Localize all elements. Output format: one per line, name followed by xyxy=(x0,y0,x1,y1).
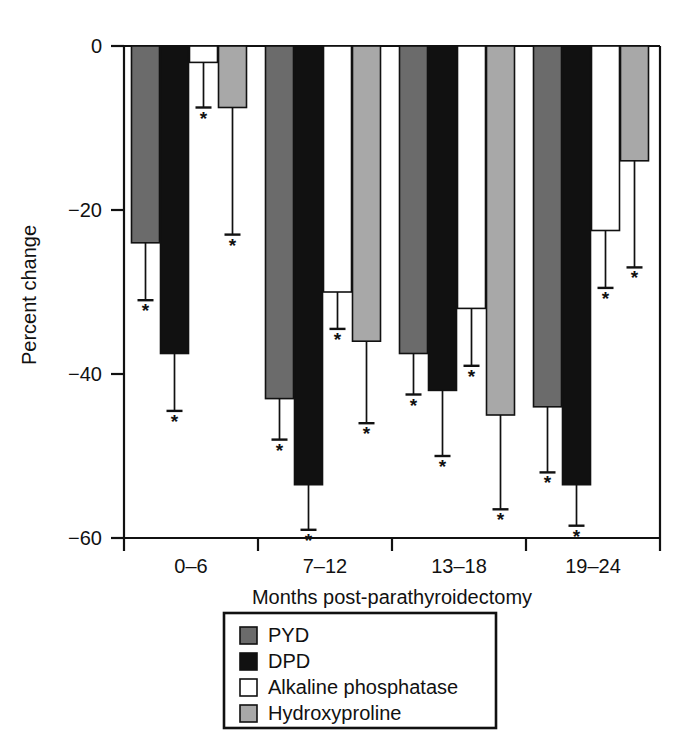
y-tick-label: −40 xyxy=(68,363,102,385)
y-axis-title: Percent change xyxy=(18,225,40,365)
significance-asterisk: * xyxy=(573,526,581,547)
category-label: 19–24 xyxy=(565,555,621,577)
significance-asterisk: * xyxy=(468,366,476,387)
legend-label: Alkaline phosphatase xyxy=(268,676,458,698)
significance-asterisk: * xyxy=(305,530,313,551)
significance-asterisk: * xyxy=(363,423,371,444)
significance-asterisk: * xyxy=(410,395,418,416)
y-tick-label: 0 xyxy=(91,35,102,57)
legend-swatch xyxy=(240,653,257,670)
figure-container: Percent change 0−20−40−60 **************… xyxy=(0,0,694,742)
significance-asterisk: * xyxy=(439,456,447,477)
bar xyxy=(458,46,486,308)
significance-asterisk: * xyxy=(142,300,150,321)
significance-asterisk: * xyxy=(334,329,342,350)
bar xyxy=(161,46,189,354)
bar-chart: Percent change 0−20−40−60 **************… xyxy=(0,0,694,742)
bar xyxy=(324,46,352,292)
legend: PYDDPDAlkaline phosphataseHydroxyproline xyxy=(224,613,496,728)
legend-label: Hydroxyproline xyxy=(268,702,401,724)
bar xyxy=(592,46,620,231)
bar xyxy=(400,46,428,354)
significance-asterisk: * xyxy=(200,108,208,129)
legend-swatch xyxy=(240,627,257,644)
category-label: 0–6 xyxy=(174,555,207,577)
legend-swatch xyxy=(240,705,257,722)
y-tick-label: −20 xyxy=(68,199,102,221)
bar xyxy=(295,46,323,485)
legend-label: PYD xyxy=(268,624,309,646)
legend-label: DPD xyxy=(268,650,310,672)
bar xyxy=(534,46,562,407)
category-label: 13–18 xyxy=(431,555,487,577)
bar xyxy=(353,46,381,341)
legend-swatch xyxy=(240,679,257,696)
significance-asterisk: * xyxy=(631,267,639,288)
significance-asterisk: * xyxy=(544,472,552,493)
significance-asterisk: * xyxy=(229,235,237,256)
bar xyxy=(190,46,218,62)
bar xyxy=(219,46,247,108)
bar-group: **************** xyxy=(132,46,649,551)
category-label-group: 0–67–1213–1819–24 xyxy=(174,555,621,577)
bar xyxy=(563,46,591,485)
bar xyxy=(429,46,457,390)
y-tick-group: 0−20−40−60 xyxy=(68,35,124,549)
significance-asterisk: * xyxy=(171,411,179,432)
x-axis-title: Months post-parathyroidectomy xyxy=(252,586,532,608)
significance-asterisk: * xyxy=(276,440,284,461)
y-tick-label: −60 xyxy=(68,527,102,549)
significance-asterisk: * xyxy=(497,509,505,530)
bar xyxy=(266,46,294,399)
bar xyxy=(132,46,160,243)
bar xyxy=(487,46,515,415)
category-label: 7–12 xyxy=(303,555,348,577)
bar xyxy=(621,46,649,161)
significance-asterisk: * xyxy=(602,288,610,309)
